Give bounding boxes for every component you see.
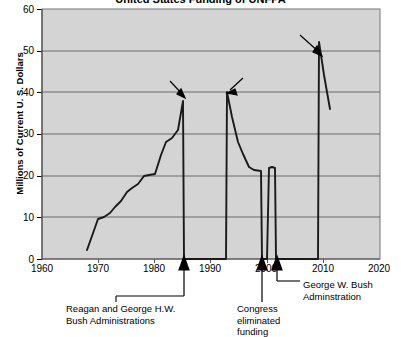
chart-canvas bbox=[0, 0, 401, 337]
chart-root: United States Funding of UNFPA Millions … bbox=[0, 0, 401, 337]
